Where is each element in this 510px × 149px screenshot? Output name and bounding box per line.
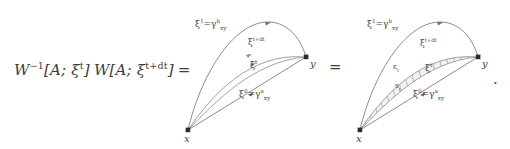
- figure-left-canvas: [170, 0, 330, 149]
- label-xi-1: ξ1=γbxy: [195, 19, 226, 31]
- arrowhead-xi-t-plus-dt: [246, 54, 252, 58]
- label-xi-t-plus-dt: ξt+dt: [420, 38, 437, 47]
- vertex-x-label: x: [356, 133, 362, 144]
- label-xi-t: ξt: [425, 63, 432, 73]
- vertex-y-marker: [476, 55, 481, 60]
- curve-xi-1: [188, 22, 306, 130]
- arrowhead-xi-1: [265, 22, 271, 25]
- figure-left: x y ξ1=γbxy ξt+dt ξt ξ0=γaxy: [170, 0, 330, 149]
- vertex-y-marker: [304, 55, 309, 60]
- label-s-t: st: [395, 82, 401, 92]
- figure-right: x y ξ1=γbxy ξt+dt ξt ξ0=γaxy εt st: [342, 0, 502, 149]
- label-xi-t: ξt: [250, 60, 257, 70]
- figure-right-canvas: [342, 0, 502, 149]
- w-symbol: W: [94, 61, 110, 79]
- vertex-x-marker: [358, 128, 363, 133]
- lhs-bracket-1: [A; ξ: [44, 61, 80, 79]
- lhs-sup-2: t+dt: [145, 60, 167, 71]
- w-inverse-exponent: −1: [30, 60, 44, 71]
- vertex-x-label: x: [184, 133, 190, 144]
- lhs-bracket-2: [A; ξ: [110, 61, 146, 79]
- label-xi-t-plus-dt: ξt+dt: [248, 37, 265, 46]
- w-inverse-symbol: W: [14, 61, 30, 79]
- label-xi-0: ξ0=γaxy: [239, 89, 270, 101]
- lhs-close-1: ]: [84, 61, 90, 79]
- lhs-formula: W−1[A; ξt]W[A; ξt+dt]=: [14, 60, 191, 79]
- trailing-period: .: [493, 70, 498, 88]
- label-xi-1: ξ1=γbxy: [367, 19, 398, 31]
- equation-figure-page: W−1[A; ξt]W[A; ξt+dt]= x y ξ1=γbxy ξt+dt…: [0, 0, 510, 149]
- label-xi-0: ξ0=γaxy: [413, 89, 444, 101]
- vertex-x-marker: [186, 128, 191, 133]
- vertex-y-label: y: [310, 58, 316, 69]
- vertex-y-label: y: [482, 58, 488, 69]
- arrowhead-xi-1: [437, 22, 443, 25]
- middle-equals-sign: =: [329, 58, 342, 76]
- label-epsilon-t: εt: [393, 63, 399, 73]
